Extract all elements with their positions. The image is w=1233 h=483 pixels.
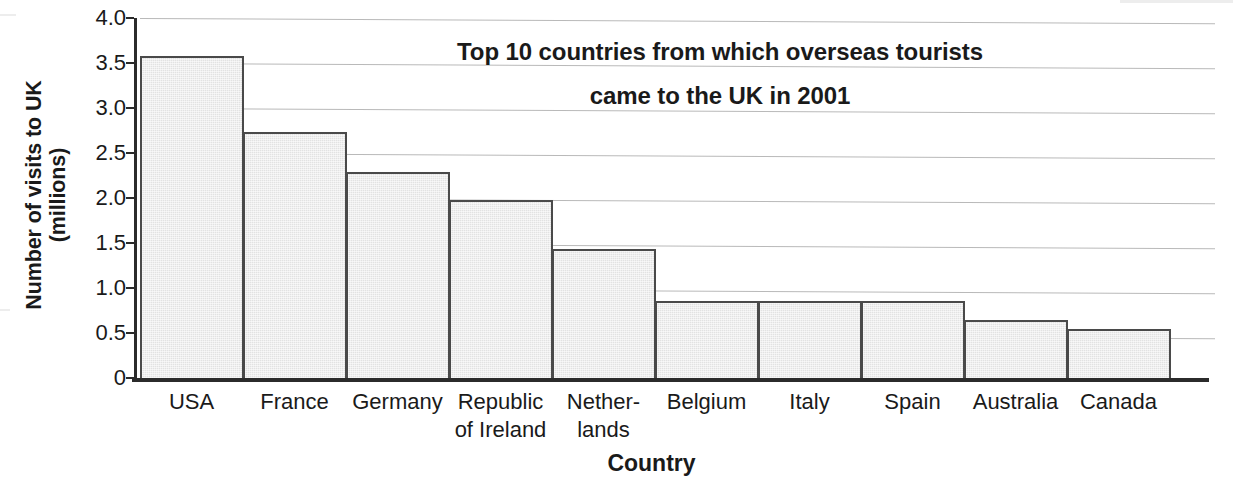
y-axis-title: Number of visits to UK (millions) xyxy=(0,0,92,390)
x-axis-tick-label: Germany xyxy=(346,388,449,416)
x-axis-tick-label: Nether- lands xyxy=(552,388,655,444)
y-axis-tick-label: 3.5 xyxy=(95,52,126,74)
y-axis-tick-label: 3.0 xyxy=(95,97,126,119)
x-axis-title-text: Country xyxy=(607,450,695,476)
x-axis-tick-label: Spain xyxy=(861,388,964,416)
y-axis-tick-mark xyxy=(126,332,134,334)
y-axis-line xyxy=(134,18,137,380)
y-axis-tick-mark xyxy=(126,197,134,199)
y-axis-tick-label: 2.0 xyxy=(95,187,126,209)
x-axis-tick-label: Belgium xyxy=(655,388,758,416)
x-axis-tick-label: Republic of Ireland xyxy=(449,388,552,444)
bar xyxy=(243,132,347,378)
bar xyxy=(552,249,656,378)
bar xyxy=(140,56,244,378)
x-axis-line xyxy=(132,378,1209,382)
x-axis-tick-labels: USAFranceGermanyRepublic of IrelandNethe… xyxy=(140,388,1170,450)
bar xyxy=(758,301,862,378)
y-axis-tick-mark xyxy=(126,17,134,19)
x-axis-title: Country xyxy=(0,450,1233,477)
y-axis-tick-label: 4.0 xyxy=(95,7,126,29)
y-axis-tick-label: 0 xyxy=(114,367,126,389)
chart-title-line-2: came to the UK in 2001 xyxy=(390,74,1050,118)
bar xyxy=(346,172,450,378)
y-axis-title-line-2: (millions) xyxy=(46,80,70,310)
chart-figure: Number of visits to UK (millions) 4.03.5… xyxy=(0,0,1233,483)
x-axis-tick-label: Canada xyxy=(1067,388,1170,416)
x-axis-tick-label: Australia xyxy=(964,388,1067,416)
scan-artifact-line xyxy=(1120,0,1233,3)
bar xyxy=(1067,329,1171,379)
x-axis-tick-label: Italy xyxy=(758,388,861,416)
chart-title: Top 10 countries from which overseas tou… xyxy=(390,30,1050,119)
x-axis-tick-label: USA xyxy=(140,388,243,416)
y-axis-tick-label: 1.0 xyxy=(95,277,126,299)
bar xyxy=(861,301,965,378)
y-axis-tick-mark xyxy=(126,242,134,244)
y-axis-tick-mark xyxy=(126,152,134,154)
y-axis-title-line-1: Number of visits to UK xyxy=(22,80,46,310)
y-axis-tick-mark xyxy=(126,62,134,64)
y-axis-ticks: 4.03.53.02.52.01.51.00.50 xyxy=(88,0,134,390)
bar xyxy=(655,301,759,378)
bar xyxy=(964,320,1068,379)
y-axis-tick-mark xyxy=(126,287,134,289)
y-axis-tick-label: 1.5 xyxy=(95,232,126,254)
y-axis-tick-mark xyxy=(126,107,134,109)
y-axis-tick-label: 0.5 xyxy=(95,322,126,344)
bar xyxy=(449,200,553,378)
x-axis-tick-label: France xyxy=(243,388,346,416)
chart-title-line-1: Top 10 countries from which overseas tou… xyxy=(390,30,1050,74)
y-axis-tick-label: 2.5 xyxy=(95,142,126,164)
